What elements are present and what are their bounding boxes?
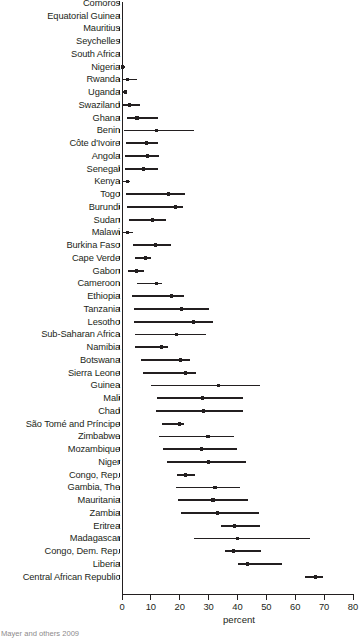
category-label: Madagascar: [70, 532, 120, 544]
data-point-marker: [135, 269, 138, 273]
chart-row: Tanzania: [0, 303, 363, 315]
y-tick-mark: [119, 78, 120, 82]
chart-row: Mauritania: [0, 494, 363, 506]
y-tick-mark: [119, 39, 120, 43]
data-point-marker: [246, 562, 249, 566]
x-tick-mark: [237, 595, 238, 600]
y-tick-mark: [119, 256, 120, 260]
data-point-marker: [180, 307, 183, 311]
category-label: Senegal: [87, 163, 120, 175]
y-tick-mark: [119, 562, 120, 566]
data-point-marker: [213, 486, 216, 490]
chart-row: Equatorial Guinea: [0, 10, 363, 22]
data-point-marker: [202, 409, 205, 413]
confidence-interval-bar: [133, 244, 171, 246]
y-tick-mark: [119, 575, 120, 579]
y-tick-mark: [119, 180, 120, 184]
confidence-interval-bar: [137, 283, 162, 285]
chart-row: Congo, Rep.: [0, 469, 363, 481]
category-label: Ghana: [93, 112, 120, 124]
y-tick-mark: [119, 14, 120, 18]
category-label: Gambia, The: [68, 481, 120, 493]
y-tick-mark: [119, 333, 120, 337]
data-point-marker: [232, 549, 235, 553]
chart-row: Guinea: [0, 379, 363, 391]
category-label: Ethiopia: [87, 290, 120, 302]
category-label: Sierra Leone: [68, 367, 120, 379]
chart-row: Lesotho: [0, 316, 363, 328]
confidence-interval-bar: [129, 219, 166, 221]
category-label: Angola: [92, 150, 120, 162]
chart-row: Ethiopia: [0, 290, 363, 302]
y-tick-mark: [119, 435, 120, 439]
confidence-interval-bar: [124, 130, 194, 132]
confidence-interval-bar: [126, 193, 185, 195]
chart-row: Zimbabwe: [0, 430, 363, 442]
category-label: Cape Verde: [72, 252, 120, 264]
confidence-interval-bar: [126, 142, 158, 144]
data-point-marker: [124, 90, 127, 94]
confidence-interval-bar: [221, 525, 260, 527]
chart-row: Nigeria: [0, 61, 363, 73]
category-label: Cameroon: [77, 277, 120, 289]
data-point-marker: [178, 422, 181, 426]
y-tick-mark: [119, 473, 120, 477]
category-label: Swaziland: [79, 99, 120, 111]
data-point-marker: [151, 218, 154, 222]
chart-row: Comoros: [0, 0, 363, 9]
data-point-marker: [126, 231, 129, 235]
category-label: Chad: [98, 405, 120, 417]
chart-row: Zambia: [0, 507, 363, 519]
category-label: Lesotho: [88, 316, 120, 328]
category-label: Comoros: [83, 0, 120, 9]
y-tick-mark: [119, 537, 120, 541]
category-label: Botswana: [80, 354, 120, 366]
data-point-marker: [236, 537, 239, 541]
data-point-marker: [145, 141, 148, 145]
chart-row: Togo: [0, 188, 363, 200]
category-label: Rwanda: [86, 73, 120, 85]
x-tick-mark: [353, 595, 354, 600]
confidence-interval-bar: [181, 512, 259, 514]
source-note: Mayer and others 2009: [1, 629, 201, 639]
chart-row: Sierra Leone: [0, 367, 363, 379]
chart-row: Côte d'Ivoire: [0, 137, 363, 149]
x-tick-mark: [179, 595, 180, 600]
data-point-marker: [170, 294, 173, 298]
category-label: Burundi: [89, 201, 120, 213]
y-tick-mark: [119, 90, 120, 94]
chart-row: Gambia, The: [0, 481, 363, 493]
y-tick-mark: [119, 205, 120, 209]
data-point-marker: [154, 243, 157, 247]
confidence-interval-bar: [135, 334, 206, 336]
category-label: Côte d'Ivoire: [69, 137, 120, 149]
y-tick-mark: [119, 167, 120, 171]
chart-row: Cape Verde: [0, 252, 363, 264]
category-label: Mauritania: [78, 494, 120, 506]
data-point-marker: [206, 435, 209, 439]
x-tick-mark: [266, 595, 267, 600]
y-tick-mark: [119, 384, 120, 388]
y-tick-mark: [119, 524, 120, 528]
data-point-marker: [135, 116, 138, 120]
data-point-marker: [144, 256, 147, 260]
category-label: Zambia: [90, 507, 120, 519]
chart-row: São Tomé and Príncipe: [0, 418, 363, 430]
confidence-interval-bar: [143, 372, 195, 374]
y-tick-mark: [119, 218, 120, 222]
data-point-marker: [184, 371, 187, 375]
data-point-marker: [233, 524, 236, 528]
confidence-interval-bar: [132, 295, 184, 297]
category-label: Mauritius: [83, 22, 120, 34]
chart-row: Sub-Saharan Africa: [0, 328, 363, 340]
y-tick-mark: [119, 141, 120, 145]
data-point-marker: [155, 282, 158, 286]
x-tick-label: 40: [223, 601, 253, 612]
category-label: Nigeria: [91, 61, 120, 73]
data-point-marker: [146, 154, 149, 158]
x-axis-title: percent: [223, 614, 255, 625]
data-point-marker: [184, 473, 187, 477]
category-label: Sudan: [94, 214, 120, 226]
chart-row: Benin: [0, 124, 363, 136]
category-label: Guinea: [91, 379, 120, 391]
